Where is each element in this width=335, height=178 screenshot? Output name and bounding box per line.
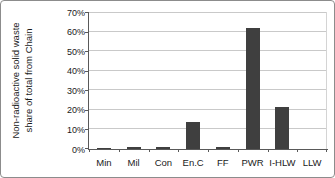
bar-en-c <box>186 122 200 149</box>
x-tick-mark <box>268 149 269 152</box>
y-tick-mark <box>85 110 89 111</box>
gridline <box>89 89 327 90</box>
y-tick-mark <box>85 32 89 33</box>
bar-chart-figure: Non-radioactive solid waste share of tot… <box>0 0 335 178</box>
x-tick-mark <box>89 149 90 152</box>
x-tick-label: Mil <box>119 157 149 168</box>
x-tick-label: Min <box>89 157 119 168</box>
x-tick-mark <box>297 149 298 152</box>
y-tick-mark <box>85 129 89 130</box>
bar-pwr <box>246 28 260 149</box>
x-tick-label: LLW <box>297 157 327 168</box>
gridline <box>89 12 327 13</box>
x-tick-mark <box>149 149 150 152</box>
x-tick-label: PWR <box>238 157 268 168</box>
x-tick-label: En.C <box>178 157 208 168</box>
y-tick-label: 30% <box>55 86 85 96</box>
x-tick-label: I-HLW <box>268 157 298 168</box>
y-tick-mark <box>85 51 89 52</box>
x-tick-mark <box>238 149 239 152</box>
gridline <box>89 31 327 32</box>
x-tick-mark <box>119 149 120 152</box>
y-tick-mark <box>85 12 89 13</box>
gridline <box>89 128 327 129</box>
plot-area <box>89 12 327 149</box>
y-tick-mark <box>85 71 89 72</box>
y-axis-title-line2: share of total from Chain <box>22 22 35 138</box>
y-tick-label: 60% <box>55 27 85 37</box>
gridline <box>89 70 327 71</box>
y-tick-label: 50% <box>55 47 85 57</box>
y-tick-label: 20% <box>55 105 85 115</box>
bar-con <box>156 147 170 149</box>
y-tick-label: 10% <box>55 125 85 135</box>
y-axis-title-text: Non-radioactive solid waste share of tot… <box>10 22 35 138</box>
bar-ff <box>216 147 230 149</box>
x-tick-label: FF <box>208 157 238 168</box>
x-tick-mark <box>178 149 179 152</box>
y-tick-mark <box>85 90 89 91</box>
x-tick-mark <box>208 149 209 152</box>
gridline <box>89 50 327 51</box>
bar-mil <box>127 147 141 149</box>
y-tick-mark <box>85 148 89 149</box>
bar-i-hlw <box>275 107 289 149</box>
x-tick-label: Con <box>149 157 179 168</box>
plot-right-border <box>326 12 327 149</box>
y-tick-label: 70% <box>55 8 85 18</box>
y-tick-label: 0% <box>55 145 85 155</box>
bar-min <box>97 148 111 149</box>
x-tick-mark <box>326 149 327 152</box>
y-tick-label: 40% <box>55 66 85 76</box>
y-axis-title: Non-radioactive solid waste share of tot… <box>5 12 39 149</box>
gridline <box>89 109 327 110</box>
y-axis-title-line1: Non-radioactive solid waste <box>10 22 23 138</box>
